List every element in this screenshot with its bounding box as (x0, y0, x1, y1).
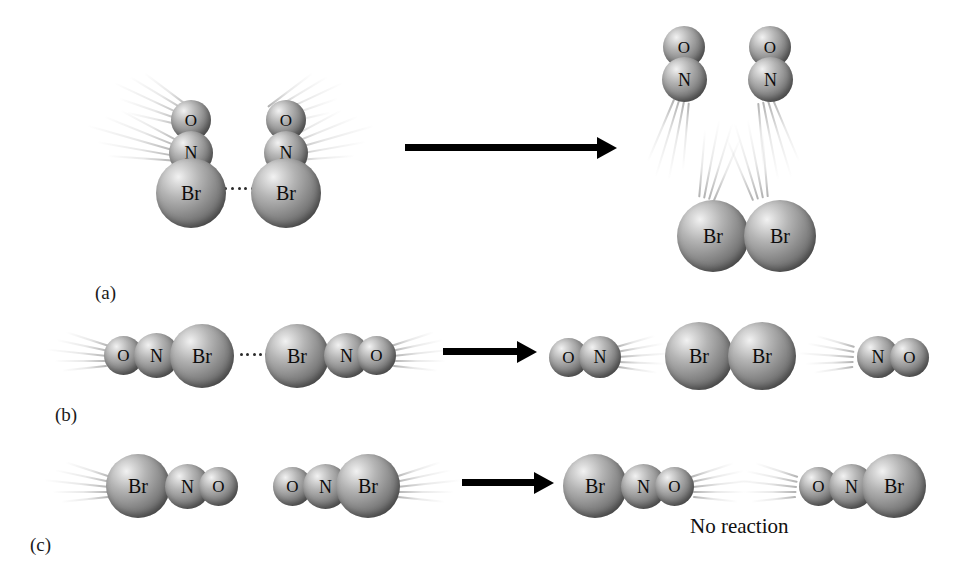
arrow-shaft (462, 479, 538, 486)
panel-label-c: (c) (30, 534, 51, 556)
motion-trail (396, 479, 462, 488)
atom-product-left-br: Br (563, 454, 627, 518)
panel-c: BrNOONBrBrNOONBr(c)No reaction (0, 0, 958, 578)
reaction-arrow (462, 479, 554, 486)
atom-reactant-left-o: O (199, 467, 238, 506)
motion-trail (692, 480, 754, 488)
atom-product-right-br: Br (862, 454, 926, 518)
motion-trail (735, 480, 797, 488)
arrow-head (534, 472, 554, 494)
no-reaction-note: No reaction (690, 514, 789, 539)
figure-canvas: ONBrONBrONONBrBr(a)ONBrBrNOONBrBrNO(b)Br… (0, 0, 958, 578)
atom-product-left-o: O (655, 467, 694, 506)
atom-reactant-right-br: Br (336, 454, 400, 518)
motion-trail (44, 479, 110, 488)
atom-reactant-left-br: Br (106, 454, 170, 518)
